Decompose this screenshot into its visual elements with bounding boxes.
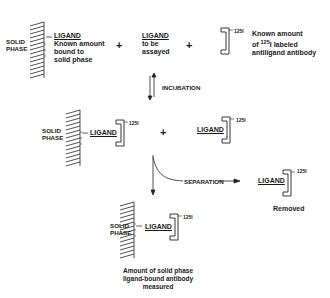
ligand-free: LIGAND (197, 126, 224, 133)
ligand-known-description: Known amount bound to solid phase (54, 40, 105, 64)
caption-line: measured (108, 283, 208, 291)
desc-line: antiligand antibody (252, 49, 316, 57)
desc-line: Known amount (54, 40, 105, 48)
incubation-label: INCUBATION (162, 84, 200, 91)
ligand-assayed-description: to be assayed (142, 40, 170, 56)
antibody-bracket-1 (221, 28, 233, 54)
caption-line: ligand-bound antibody (108, 275, 208, 283)
solid-phase-label-1: SOLID PHASE (6, 38, 27, 52)
phase-text: PHASE (6, 45, 27, 52)
solid-phase-label-3: SOLID PHASE (110, 222, 131, 236)
i125-label-removed: 125I (297, 168, 307, 174)
phase-text: PHASE (110, 229, 131, 236)
antibody-bracket-2 (116, 120, 128, 146)
desc-line: bound to (54, 48, 105, 56)
caption-line: Amount of solid phase (108, 267, 208, 275)
ligand-assayed: LIGAND (142, 32, 169, 39)
i125-label-4: 125I (183, 214, 193, 220)
separation-arrow-icon (151, 155, 240, 195)
solid-text: SOLID (42, 127, 63, 134)
measured-caption: Amount of solid phase ligand-bound antib… (108, 267, 208, 291)
antibody-description: Known amount of 125I labeled antiligand … (252, 30, 316, 57)
i125-label-3: 125I (236, 117, 246, 123)
desc-line: solid phase (54, 56, 105, 64)
plus-sign-3: + (160, 126, 166, 138)
ligand-measured: LIGAND (145, 223, 172, 230)
plus-sign-2: + (186, 39, 192, 51)
incubation-arrows-icon (148, 73, 156, 100)
desc-line: assayed (142, 48, 170, 56)
separation-label: SEPARATION (184, 178, 224, 185)
ligand-removed: LIGAND (258, 177, 285, 184)
removed-caption: Removed (273, 205, 305, 213)
ligand-bound: LIGAND (90, 129, 117, 136)
solid-phase-hatch-2 (66, 110, 82, 166)
solid-text: SOLID (110, 222, 131, 229)
desc-line: Known amount (252, 30, 316, 38)
desc-line: to be (142, 40, 170, 48)
solid-phase-hatch-1 (30, 22, 46, 78)
i125-label-1: 125I (234, 28, 244, 34)
phase-text: PHASE (42, 134, 63, 141)
desc-line: of 125I labeled (252, 38, 316, 49)
solid-text: SOLID (6, 38, 27, 45)
solid-phase-label-2: SOLID PHASE (42, 127, 63, 141)
ligand-known: LIGAND (54, 32, 81, 39)
plus-sign-1: + (116, 39, 122, 51)
i125-label-2: 125I (129, 120, 139, 126)
